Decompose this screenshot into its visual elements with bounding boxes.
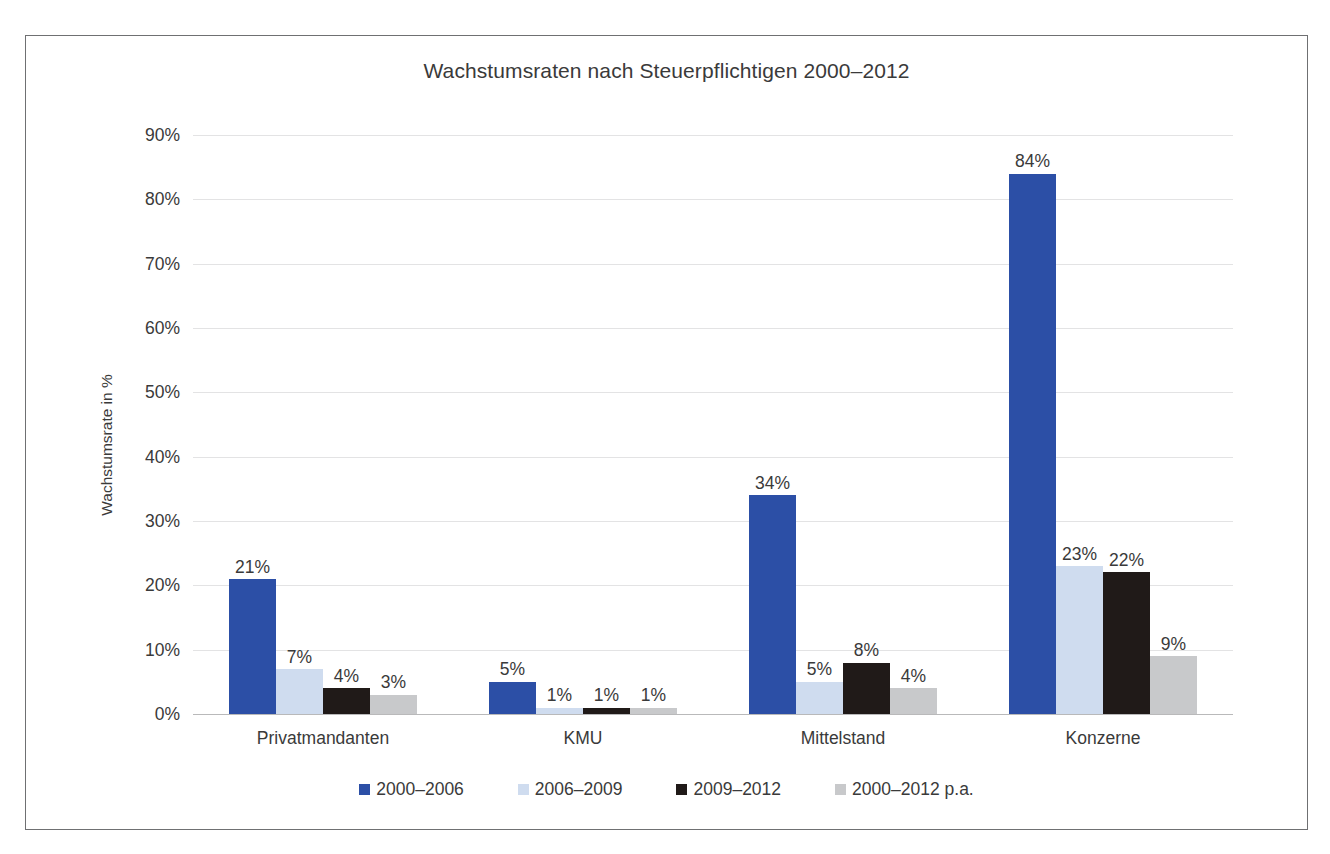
bar[interactable]: 1% [536, 708, 583, 714]
bar-value-label: 84% [1015, 152, 1050, 170]
bar-value-label: 8% [854, 641, 879, 659]
x-category-label: KMU [564, 728, 603, 749]
bar-slot: 22% [1103, 135, 1150, 714]
y-tick-label: 80% [145, 189, 180, 210]
y-tick-label: 60% [145, 318, 180, 339]
bar-slot: 84% [1009, 135, 1056, 714]
bar-value-label: 7% [287, 648, 312, 666]
legend-item[interactable]: 2000–2012 p.a. [835, 779, 974, 800]
legend-swatch-icon [676, 784, 687, 795]
bar-group: 21%7%4%3% [193, 135, 453, 714]
bar-value-label: 9% [1161, 635, 1186, 653]
legend-item[interactable]: 2000–2006 [359, 779, 464, 800]
y-tick-label: 10% [145, 639, 180, 660]
bar[interactable]: 3% [370, 695, 417, 714]
bar-value-label: 34% [755, 474, 790, 492]
y-tick-label: 40% [145, 446, 180, 467]
chart-figure-frame: Wachstumsraten nach Steuerpflichtigen 20… [25, 35, 1308, 830]
bar-value-label: 23% [1062, 545, 1097, 563]
bar-value-label: 5% [500, 660, 525, 678]
chart-legend: 2000–20062006–20092009–20122000–2012 p.a… [26, 779, 1307, 800]
bar-slot: 4% [323, 135, 370, 714]
y-tick-label: 30% [145, 511, 180, 532]
legend-label: 2009–2012 [693, 779, 781, 800]
bar[interactable]: 5% [796, 682, 843, 714]
x-category-label: Konzerne [1066, 728, 1141, 749]
bar-slot: 9% [1150, 135, 1197, 714]
y-tick-label: 70% [145, 253, 180, 274]
bar-value-label: 1% [641, 686, 666, 704]
bar-groups: 21%7%4%3%5%1%1%1%34%5%8%4%84%23%22%9% [193, 135, 1233, 714]
y-tick-label: 20% [145, 575, 180, 596]
bar[interactable]: 4% [890, 688, 937, 714]
y-tick-label: 50% [145, 382, 180, 403]
bar-value-label: 21% [235, 558, 270, 576]
bar-slot: 1% [536, 135, 583, 714]
bar-value-label: 4% [334, 667, 359, 685]
y-tick-label: 0% [155, 704, 180, 725]
legend-swatch-icon [518, 784, 529, 795]
legend-swatch-icon [359, 784, 370, 795]
legend-item[interactable]: 2009–2012 [676, 779, 781, 800]
bar-value-label: 1% [594, 686, 619, 704]
bar[interactable]: 8% [843, 663, 890, 714]
bar-slot: 7% [276, 135, 323, 714]
x-category-label: Mittelstand [801, 728, 886, 749]
plot-area: 90%80%70%60%50%40%30%20%10%0% 21%7%4%3%5… [193, 135, 1233, 714]
bar-slot: 4% [890, 135, 937, 714]
bar[interactable]: 1% [583, 708, 630, 714]
bar-slot: 23% [1056, 135, 1103, 714]
y-axis-title: Wachstumsrate in % [98, 335, 116, 555]
legend-swatch-icon [835, 784, 846, 795]
chart-figure-inner: Wachstumsraten nach Steuerpflichtigen 20… [26, 36, 1307, 829]
bar-group: 34%5%8%4% [713, 135, 973, 714]
bar-value-label: 22% [1109, 551, 1144, 569]
x-category-label: Privatmandanten [257, 728, 389, 749]
bar-value-label: 3% [381, 673, 406, 691]
bar[interactable]: 34% [749, 495, 796, 714]
legend-label: 2000–2012 p.a. [852, 779, 974, 800]
bar-slot: 34% [749, 135, 796, 714]
bar[interactable]: 22% [1103, 572, 1150, 714]
bar[interactable]: 4% [323, 688, 370, 714]
bar-slot: 8% [843, 135, 890, 714]
bar-slot: 21% [229, 135, 276, 714]
bar-slot: 1% [583, 135, 630, 714]
bar[interactable]: 21% [229, 579, 276, 714]
axis-baseline [193, 714, 1233, 715]
bar-value-label: 5% [807, 660, 832, 678]
legend-label: 2000–2006 [376, 779, 464, 800]
bar-value-label: 4% [901, 667, 926, 685]
bar[interactable]: 1% [630, 708, 677, 714]
chart-title: Wachstumsraten nach Steuerpflichtigen 20… [26, 59, 1307, 83]
bar-slot: 5% [489, 135, 536, 714]
bar[interactable]: 9% [1150, 656, 1197, 714]
bar-group: 5%1%1%1% [453, 135, 713, 714]
bar[interactable]: 5% [489, 682, 536, 714]
bar-slot: 5% [796, 135, 843, 714]
bar-group: 84%23%22%9% [973, 135, 1233, 714]
bar[interactable]: 84% [1009, 174, 1056, 714]
bar[interactable]: 23% [1056, 566, 1103, 714]
bar-slot: 1% [630, 135, 677, 714]
legend-item[interactable]: 2006–2009 [518, 779, 623, 800]
legend-label: 2006–2009 [535, 779, 623, 800]
bar-value-label: 1% [547, 686, 572, 704]
y-tick-label: 90% [145, 125, 180, 146]
bar[interactable]: 7% [276, 669, 323, 714]
bar-slot: 3% [370, 135, 417, 714]
